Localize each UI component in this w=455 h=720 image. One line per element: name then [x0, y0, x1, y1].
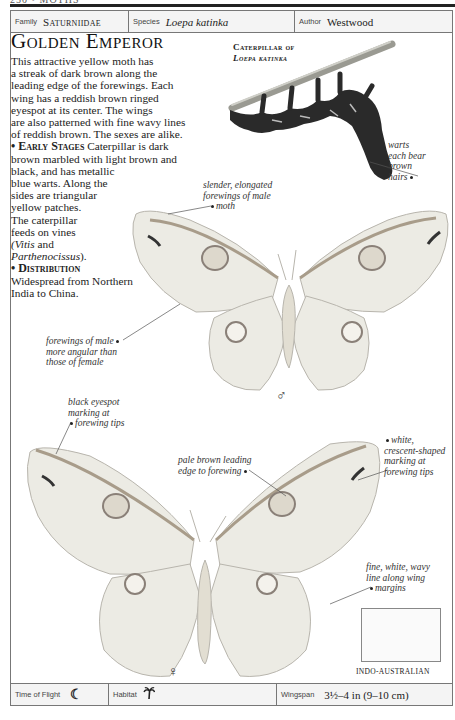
food-plant-2: Parthenocissus: [11, 250, 80, 262]
callout-black-eyespot: black eyespot marking at forewing tips: [68, 397, 125, 429]
callout-forewings-angular: forewings of male more angular than thos…: [46, 336, 121, 368]
callout-line: forewings of male: [203, 191, 272, 202]
page-title: Golden Emperor: [11, 29, 164, 54]
description-line: yellow patches.: [11, 201, 185, 213]
callout-warts: warts each bear brown hairs: [388, 140, 426, 182]
description-line: India to China.: [11, 287, 185, 299]
description-line: a streak of dark brown along the: [11, 67, 185, 79]
description-line: Widespread from Northern: [11, 275, 185, 287]
female-moth-illustration: [27, 442, 379, 677]
callout-dot: [70, 422, 73, 425]
description-line: sides are triangular: [11, 189, 185, 201]
callout-line: fine, white, wavy: [366, 562, 430, 573]
callout-line: hairs: [388, 172, 408, 182]
callout-line: warts: [388, 140, 426, 151]
caterpillar-caption-line1: Caterpillar of: [233, 42, 295, 53]
description-line: wing has a reddish brown ringed: [11, 92, 185, 104]
caterpillar-caption-line2: Loepa katinka: [233, 53, 295, 64]
description-line: The caterpillar: [11, 214, 185, 226]
distribution-map-frame: [361, 608, 441, 662]
callout-line: marking at: [384, 456, 445, 467]
male-symbol: ♂: [276, 388, 287, 404]
callout-line: edge to forewing: [178, 466, 242, 476]
callout-line: those of female: [46, 357, 121, 368]
distribution-heading: • Distribution: [11, 261, 80, 275]
callout-line: more angular than: [46, 347, 121, 358]
description-line: This attractive yellow moth has: [11, 55, 185, 67]
description-line: leading edge of the forewings. Each: [11, 79, 185, 91]
callout-line: margins: [375, 583, 406, 593]
callout-dot: [410, 176, 413, 179]
callout-line: forewings of male: [46, 336, 114, 346]
description-line: blue warts. Along the: [11, 177, 185, 189]
callout-line: black eyespot: [68, 397, 125, 408]
callout-line: pale brown leading: [178, 455, 252, 466]
callout-line: slender, elongated: [203, 180, 272, 191]
description-line: are also patterned with fine wavy lines: [11, 116, 185, 128]
description-line: feeds on vines: [11, 226, 185, 238]
callout-dot: [386, 439, 389, 442]
callout-line: crescent-shaped: [384, 446, 445, 457]
callout-line: forewing tips: [75, 418, 125, 428]
callout-slender-forewings: slender, elongated forewings of male mot…: [203, 180, 272, 212]
food-plant-1: (Vitis: [11, 238, 35, 250]
caterpillar-caption: Caterpillar of Loepa katinka: [233, 42, 295, 64]
callout-line: forewing tips: [384, 467, 445, 478]
description-line: brown marbled with light brown and: [11, 153, 185, 165]
callout-wavy-line: fine, white, wavy line along wing margin…: [366, 562, 430, 594]
female-symbol: ♀: [168, 664, 179, 680]
callout-dot: [116, 340, 119, 343]
description-line: Caterpillar is dark: [84, 140, 168, 152]
callout-line: marking at: [68, 408, 125, 419]
callout-line: brown: [388, 161, 426, 172]
callout-line: each bear: [388, 151, 426, 162]
callout-line: white,: [391, 435, 414, 445]
callout-dot: [370, 587, 373, 590]
food-plant-and: and: [35, 238, 54, 250]
description-line: eyespot at its center. The wings: [11, 104, 185, 116]
callout-dot: [244, 470, 247, 473]
description-line: black, and has metallic: [11, 165, 185, 177]
callout-line: line along wing: [366, 573, 430, 584]
callout-line: moth: [216, 201, 235, 211]
early-stages-heading: • Early Stages: [11, 139, 84, 153]
callout-dot: [211, 205, 214, 208]
food-plant-end: ).: [80, 250, 87, 262]
description: This attractive yellow moth has a streak…: [11, 55, 185, 299]
callout-pale-brown-edge: pale brown leading edge to forewing: [178, 455, 252, 476]
map-region-label: INDO-AUSTRALIAN: [356, 667, 430, 676]
callout-white-crescent: white, crescent-shaped marking at forewi…: [384, 435, 445, 477]
